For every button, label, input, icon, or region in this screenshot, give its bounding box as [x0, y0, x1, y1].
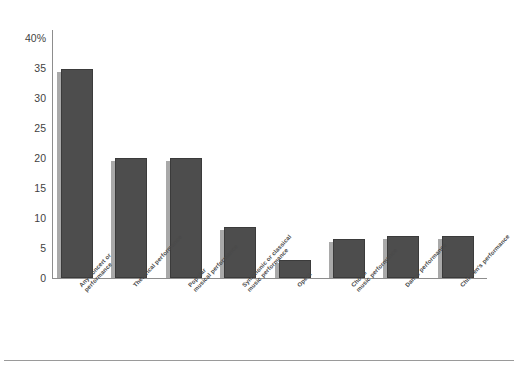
y-axis-tick-label: 5 [40, 243, 46, 253]
x-label-slot: Theatrical performance [106, 281, 160, 369]
x-label-slot: Symphonic or classicalmusic performance [215, 281, 269, 369]
bar[interactable] [170, 158, 202, 278]
x-label-slot: Choralmusic performance [324, 281, 378, 369]
y-axis-tick-label: 10 [34, 213, 46, 223]
bar-slot [324, 0, 378, 279]
bar-slot [161, 0, 215, 279]
bar-slot [270, 0, 324, 279]
x-label-slot: Dance performance [378, 281, 432, 369]
bar[interactable] [61, 69, 93, 278]
y-axis-tick-label: 15 [34, 183, 46, 193]
x-axis-category-labels: Any concert orperformanceTheatrical perf… [52, 281, 487, 369]
bar-slot [215, 0, 269, 279]
bar-series [52, 0, 487, 279]
bar-chart-figure: 40%35302520151050 Any concert orperforma… [0, 0, 518, 369]
x-label-slot: Children's performance [433, 281, 487, 369]
y-axis-tick-label: 20 [34, 153, 46, 163]
bar-slot [433, 0, 487, 279]
footer-divider [4, 360, 514, 361]
x-label-slot: Any concert orperformance [52, 281, 106, 369]
y-axis-tick-label: 30 [34, 93, 46, 103]
x-label-slot: Popularmusical performance [161, 281, 215, 369]
y-axis-tick-label: 0 [40, 273, 46, 283]
x-label-slot: Opera [270, 281, 324, 369]
bar-slot [378, 0, 432, 279]
y-axis-tick-label: 35 [34, 63, 46, 73]
y-axis-tick-label: 40% [25, 33, 46, 43]
bar[interactable] [115, 158, 147, 278]
bar-slot [106, 0, 160, 279]
y-axis-tick-label: 25 [34, 123, 46, 133]
y-axis-tick-labels: 40%35302520151050 [0, 0, 46, 369]
bar-slot [52, 0, 106, 279]
